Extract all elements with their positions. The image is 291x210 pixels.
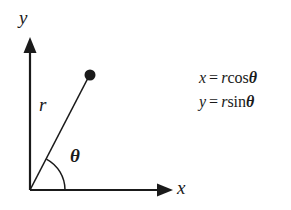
equation-x-lhs: x <box>199 69 206 86</box>
x-axis-label: x <box>177 178 185 197</box>
equation-y-argument: θ <box>246 93 254 110</box>
polar-coordinates-figure: y x r θ x=rcosθ y=rsinθ <box>0 0 291 210</box>
x-axis-arrowhead-icon <box>157 184 173 197</box>
equation-y-lhs: y <box>199 93 206 110</box>
equation-y: y=rsinθ <box>199 92 257 113</box>
equation-x-operator: = <box>209 69 218 86</box>
y-axis-arrowhead-icon <box>24 37 37 53</box>
y-axis-label: y <box>19 8 27 27</box>
equation-x: x=rcosθ <box>199 68 257 89</box>
angle-label: θ <box>70 146 80 165</box>
equation-x-argument: θ <box>249 69 257 86</box>
point-marker <box>85 70 96 81</box>
equation-y-function: sin <box>227 93 246 110</box>
equation-x-function: cos <box>227 69 248 86</box>
radius-label: r <box>39 95 46 114</box>
angle-arc <box>46 159 65 190</box>
equation-list: x=rcosθ y=rsinθ <box>199 68 257 113</box>
equation-y-operator: = <box>209 93 218 110</box>
